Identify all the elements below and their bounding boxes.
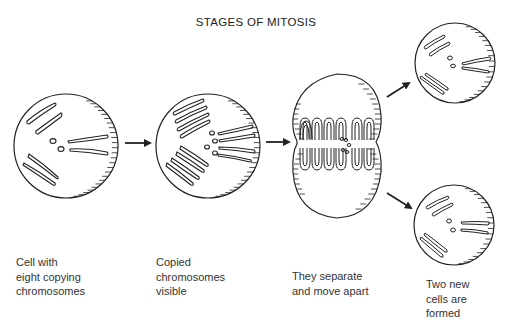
caption-line: Copied: [156, 255, 225, 270]
caption-line: They separate: [292, 269, 368, 284]
chromosome: [364, 148, 374, 170]
caption-stage-1: Cell with eight copying chromosomes: [16, 255, 85, 299]
caption-line: formed: [426, 306, 469, 321]
arrow-up-icon: [387, 83, 409, 97]
caption-stage-3: They separate and move apart: [292, 269, 368, 298]
arrow-down-icon: [387, 193, 411, 208]
daughter-cell-top: [415, 23, 495, 103]
caption-line: chromosomes: [156, 270, 225, 285]
chromosome: [324, 118, 334, 140]
cell-shading: [458, 189, 494, 264]
caption-stage-2: Copied chromosomes visible: [156, 255, 225, 299]
caption-line: and move apart: [292, 284, 368, 299]
chromosomes: [420, 35, 491, 94]
chromosomes-lower: [300, 148, 374, 170]
chromosomes: [420, 196, 489, 257]
chromosome: [312, 148, 322, 170]
chromosomes: [23, 103, 108, 185]
chromosome: [312, 118, 322, 140]
chromosomes: [166, 99, 255, 185]
caption-line: Cell with: [16, 255, 85, 270]
daughter-cell-bottom: [414, 185, 494, 265]
cell-stage-1: [14, 94, 118, 198]
caption-line: chromosomes: [16, 284, 85, 299]
cell-stage-2: [156, 94, 260, 198]
cell-shading: [215, 101, 260, 196]
caption-line: Two new: [426, 277, 469, 292]
chromosome: [352, 148, 362, 170]
cell-stage-3-dividing: [293, 74, 381, 218]
chromosome: [324, 148, 334, 170]
cell-shading: [293, 84, 381, 209]
chromosome: [336, 118, 346, 140]
chromosome: [352, 118, 362, 140]
caption-line: visible: [156, 284, 225, 299]
caption-stage-4: Two new cells are formed: [426, 277, 469, 321]
caption-line: eight copying: [16, 270, 85, 285]
chromosome: [364, 118, 374, 140]
chromosome: [300, 148, 310, 170]
caption-line: cells are: [426, 292, 469, 307]
